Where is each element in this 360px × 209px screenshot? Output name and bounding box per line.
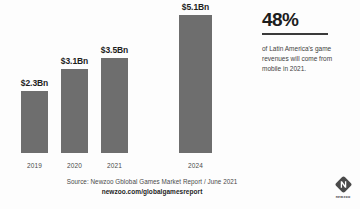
bar-column-2024: $5.1Bn	[179, 0, 212, 153]
axis-tick-label-2020: 2020	[61, 162, 88, 169]
source-url[interactable]: newzoo.com/globalgamesreport	[0, 188, 304, 195]
bar-rect-2020[interactable]	[61, 69, 88, 153]
newzoo-logo-text: newzoo	[330, 195, 356, 199]
newzoo-logo: newzoo	[330, 176, 356, 199]
bar-chart: $2.3Bn 2019 $3.1Bn 2020 $3.5Bn 2021 $5.1…	[0, 0, 245, 175]
bar-group-2024: $5.1Bn 2024	[179, 0, 212, 175]
stat-percentage: 48%	[262, 10, 350, 29]
bar-rect-2024[interactable]	[179, 15, 212, 153]
stat-callout: 48% of Latin America's game revenues wil…	[262, 10, 350, 74]
stat-divider	[262, 33, 328, 35]
bar-rect-2019[interactable]	[21, 91, 48, 153]
bar-column-2020: $3.1Bn	[61, 0, 88, 153]
axis-tick-label-2019: 2019	[21, 162, 48, 169]
bar-group-2021: $3.5Bn 2021	[101, 0, 128, 175]
stat-description: of Latin America's game revenues will co…	[262, 44, 346, 74]
footer: Source: Newzoo Gblobal Games Market Repo…	[0, 178, 304, 195]
bar-value-label-2020: $3.1Bn	[61, 56, 88, 66]
bar-column-2019: $2.3Bn	[21, 0, 48, 153]
bar-value-label-2019: $2.3Bn	[21, 78, 48, 88]
newzoo-diamond-icon	[335, 176, 352, 193]
bar-value-label-2024: $5.1Bn	[182, 2, 209, 12]
source-attribution: Source: Newzoo Gblobal Games Market Repo…	[0, 178, 304, 185]
bar-group-2019: $2.3Bn 2019	[21, 0, 48, 175]
bar-group-2020: $3.1Bn 2020	[61, 0, 88, 175]
infographic-slide: $2.3Bn 2019 $3.1Bn 2020 $3.5Bn 2021 $5.1…	[0, 0, 360, 209]
bar-column-2021: $3.5Bn	[101, 0, 128, 153]
axis-tick-label-2024: 2024	[179, 162, 212, 169]
axis-tick-label-2021: 2021	[101, 162, 128, 169]
bar-rect-2021[interactable]	[101, 58, 128, 153]
bar-value-label-2021: $3.5Bn	[101, 45, 128, 55]
